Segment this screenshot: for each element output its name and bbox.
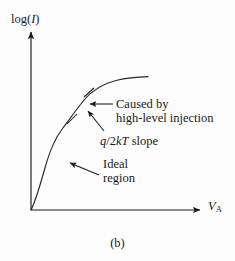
annotation-ideal-region-line1: Ideal — [103, 157, 135, 171]
annotation-q-over-2kt-slope: q/2kT slope — [100, 134, 158, 148]
annotation-high-level-injection: Caused byhigh-level injection — [116, 97, 214, 125]
diode-characteristic-plot — [0, 0, 235, 261]
annotation-high-level-injection-line1: Caused by — [116, 97, 214, 111]
figure-container: log(I) VA Caused byhigh-level injection … — [0, 0, 235, 261]
ideal-region-leader-arrow — [70, 163, 99, 175]
slope-leader-arrow — [88, 111, 104, 131]
figure-caption: (b) — [0, 236, 235, 250]
y-axis-label-suffix: ) — [35, 12, 39, 26]
annotation-slope-temperature-symbol: T — [122, 134, 129, 148]
annotation-slope-separator: /2 — [106, 134, 116, 148]
x-axis-label: VA — [208, 199, 222, 213]
annotation-ideal-region: Idealregion — [103, 157, 135, 185]
x-axis-label-subscript: A — [216, 204, 222, 214]
y-axis-label-prefix: log( — [11, 12, 31, 26]
annotation-high-level-injection-line2: high-level injection — [116, 111, 214, 125]
annotation-slope-word: slope — [129, 134, 159, 148]
x-axis-label-variable: V — [208, 199, 216, 213]
annotation-ideal-region-line2: region — [103, 171, 135, 185]
y-axis-label: log(I) — [11, 12, 39, 26]
